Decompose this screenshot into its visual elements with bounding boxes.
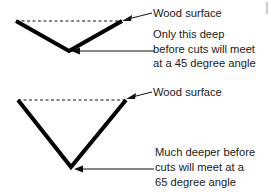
bottom-groove: Wood surface Much deeper before cuts wil… — [18, 86, 255, 188]
bottom-depth-label-line-1: Much deeper before — [155, 146, 255, 158]
bottom-depth-label-line-3: 65 degree angle — [155, 176, 236, 188]
arrowhead-icon — [74, 166, 83, 173]
groove-depth-diagram: Wood surface Only this deep before cuts … — [0, 0, 268, 196]
top-depth-label-line-3: at a 45 degree angle — [153, 57, 256, 69]
top-surface-arrow — [122, 13, 152, 21]
top-v-cut — [16, 21, 122, 51]
arrowhead-icon — [126, 93, 136, 99]
bottom-depth-label-line-2: cuts will meet at a — [155, 161, 245, 173]
bottom-v-cut — [18, 100, 126, 167]
top-depth-arrow — [71, 48, 154, 55]
bottom-surface-arrow — [126, 92, 152, 99]
top-surface-label: Wood surface — [153, 7, 222, 19]
bottom-surface-label: Wood surface — [153, 86, 222, 98]
arrowhead-icon — [122, 15, 132, 21]
top-depth-label-line-1: Only this deep — [153, 28, 225, 40]
top-depth-label-line-2: before cuts will meet — [153, 43, 256, 55]
edge-artifact — [266, 2, 268, 14]
bottom-depth-arrow — [74, 166, 154, 173]
top-groove: Wood surface Only this deep before cuts … — [16, 7, 256, 69]
